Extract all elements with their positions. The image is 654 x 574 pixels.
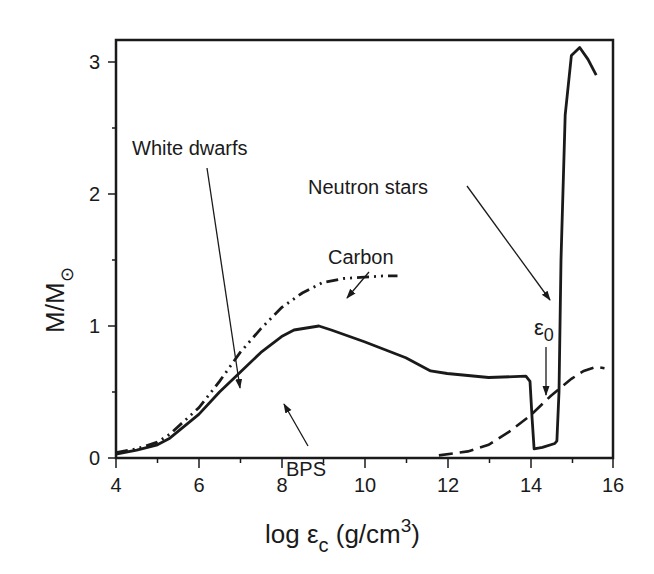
- x-tick-4: 4: [110, 474, 121, 496]
- carbon-arrow: [347, 272, 369, 298]
- x-tick-16: 16: [602, 474, 624, 496]
- y-axis-tick-labels: 0 1 2 3: [89, 51, 100, 469]
- eps-symbol: ε: [534, 315, 544, 340]
- x-tick-12: 12: [437, 474, 459, 496]
- y-tick-3: 3: [89, 51, 100, 73]
- white-dwarfs-arrow: [207, 168, 240, 388]
- y-tick-2: 2: [89, 183, 100, 205]
- y-tick-0: 0: [89, 447, 100, 469]
- carbon-label: Carbon: [328, 246, 394, 268]
- bps-label: BPS: [286, 458, 326, 480]
- x-title-unit: (g/cm: [329, 519, 401, 549]
- eps0-label: ε0: [534, 315, 554, 345]
- eps-subscript: 0: [544, 325, 554, 345]
- x-title-sub: c: [319, 534, 329, 556]
- y-title-main: M/M: [40, 282, 70, 333]
- x-title-main: log ε: [265, 519, 319, 549]
- x-axis-title: log εc (g/cm3): [265, 515, 420, 556]
- bps-arrow: [284, 404, 308, 446]
- y-axis-title: M/M⊙: [40, 267, 77, 333]
- neutron-stars-label: Neutron stars: [308, 176, 428, 198]
- neutron-stars-arrow: [467, 186, 550, 300]
- chart-svg: 0 1 2 3 4 6 8 10 12 14 16: [0, 0, 654, 574]
- x-axis-tick-labels: 4 6 8 10 12 14 16: [110, 474, 624, 496]
- series-neutron-dashed-line: [439, 367, 605, 456]
- x-title-sup: 3: [401, 515, 412, 536]
- x-tick-10: 10: [354, 474, 376, 496]
- x-tick-14: 14: [520, 474, 542, 496]
- x-title-close: ): [411, 519, 420, 549]
- series-carbon-line: [116, 276, 398, 453]
- x-tick-6: 6: [193, 474, 204, 496]
- y-tick-1: 1: [89, 315, 100, 337]
- annotation-arrows: [207, 168, 550, 446]
- y-title-sub: ⊙: [57, 267, 77, 282]
- white-dwarfs-label: White dwarfs: [132, 137, 248, 159]
- x-axis-ticks: [116, 458, 613, 468]
